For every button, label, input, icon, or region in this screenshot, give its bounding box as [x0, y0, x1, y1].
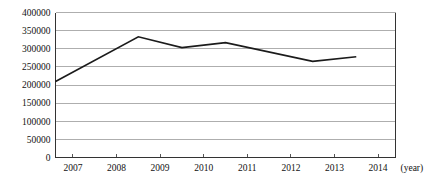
- y-axis-tick-label: 250000: [22, 62, 51, 72]
- y-axis-tick-label: 200000: [22, 80, 51, 90]
- x-axis-tick-labels: 20072008200920102011201220132014: [63, 163, 387, 173]
- x-axis-tick-label: 2012: [281, 163, 300, 173]
- y-axis-tick-label: 350000: [22, 26, 51, 36]
- y-axis-tick-label: 100000: [22, 117, 51, 127]
- x-axis-tick-label: 2007: [63, 163, 82, 173]
- data-series-line: [56, 37, 357, 82]
- x-axis-tick-label: 2010: [194, 163, 213, 173]
- y-axis-tick-label: 50000: [27, 135, 51, 145]
- y-axis-tick-label: 400000: [22, 8, 51, 18]
- x-axis-tick-label: 2014: [369, 163, 388, 173]
- x-axis-tick-label: 2013: [325, 163, 344, 173]
- y-axis-tick-label: 150000: [22, 98, 51, 108]
- line-chart: 0500001000001500002000002500003000003500…: [0, 0, 429, 186]
- y-axis-tick-label: 300000: [22, 44, 51, 54]
- y-axis-tick-label: 0: [46, 153, 51, 163]
- x-axis-tick-marks: [73, 154, 378, 158]
- gridlines: [56, 13, 396, 140]
- x-axis-tick-label: 2008: [107, 163, 126, 173]
- chart-canvas: 0500001000001500002000002500003000003500…: [0, 0, 429, 186]
- x-axis-unit-label: (year): [401, 163, 424, 174]
- x-axis-tick-label: 2011: [238, 163, 257, 173]
- x-axis-tick-label: 2009: [151, 163, 170, 173]
- y-axis-tick-labels: 0500001000001500002000002500003000003500…: [22, 8, 51, 163]
